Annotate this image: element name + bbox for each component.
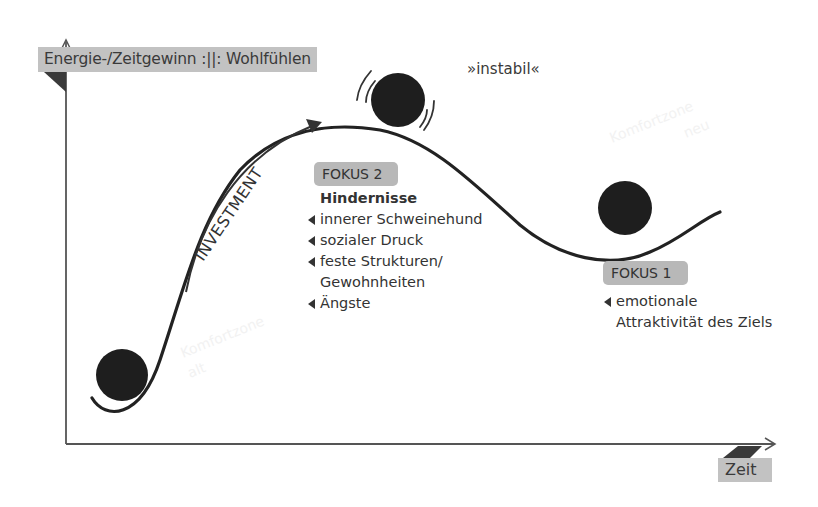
focus-1-item-continued: Attraktivität des Ziels	[603, 312, 772, 333]
focus-1-item: emotionale	[603, 291, 772, 312]
band-start-label-1: Komfortzone	[178, 313, 266, 361]
obstacles-list: Hindernisse innerer Schweinehund soziale…	[307, 188, 483, 314]
focus-2-tag: FOKUS 2	[314, 162, 398, 186]
instability-label: »instabil«	[467, 60, 540, 78]
band-end-label-2: neu	[681, 116, 711, 141]
obstacle-item: feste Strukturen/	[307, 251, 483, 272]
obstacles-heading: Hindernisse	[307, 188, 483, 209]
y-axis-label: Energie-/Zeitgewinn :||: Wohlfühlen	[38, 47, 317, 72]
x-axis-label: Zeit	[718, 458, 772, 482]
ball-unstable	[371, 73, 425, 127]
ball-new-comfort-zone	[598, 181, 652, 235]
focus-1-list: emotionale Attraktivität des Ziels	[603, 291, 772, 333]
investment-arrow: INVESTMENT	[186, 119, 322, 292]
obstacle-item: sozialer Druck	[307, 230, 483, 251]
band-end-label-1: Komfortzone	[607, 98, 695, 146]
obstacle-item: Ängste	[307, 293, 483, 314]
investment-label: INVESTMENT	[191, 164, 267, 264]
ball-old-comfort-zone	[96, 349, 148, 401]
focus-1-tag: FOKUS 1	[603, 261, 688, 285]
obstacle-item: innerer Schweinehund	[307, 209, 483, 230]
band-start-label-2: alt	[185, 359, 208, 381]
obstacle-item-continued: Gewohnheiten	[307, 272, 483, 293]
